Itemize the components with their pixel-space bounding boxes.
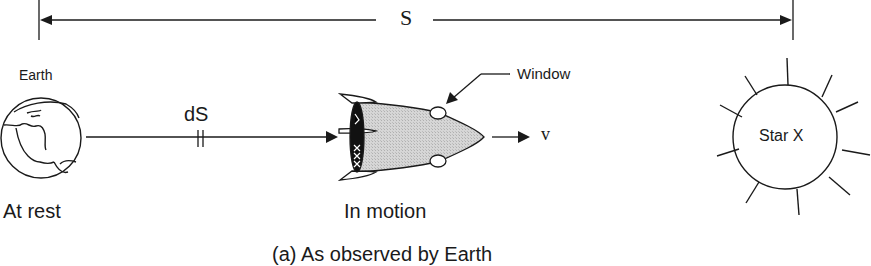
earth-state-label: At rest bbox=[3, 200, 61, 223]
ds-segment bbox=[86, 130, 338, 147]
rocket-icon bbox=[339, 94, 484, 180]
velocity-label: v bbox=[541, 124, 550, 145]
distance-s-dimension bbox=[39, 0, 793, 40]
ds-label: dS bbox=[184, 103, 208, 126]
velocity-arrow bbox=[492, 131, 530, 143]
star-label: Star X bbox=[759, 127, 803, 145]
distance-s-label: S bbox=[400, 5, 412, 31]
window-label: Window bbox=[517, 65, 570, 82]
earth-label: Earth bbox=[19, 67, 52, 83]
window-pointer-arrow bbox=[446, 74, 510, 104]
earth-globe-icon bbox=[1, 98, 81, 178]
rocket-state-label: In motion bbox=[344, 200, 426, 223]
figure-caption: (a) As observed by Earth bbox=[272, 243, 492, 266]
